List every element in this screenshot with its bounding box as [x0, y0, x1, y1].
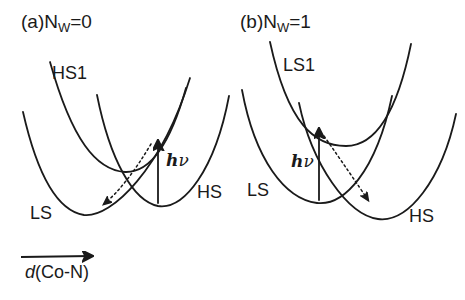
panel-b-excited-label: LS1 [283, 55, 315, 75]
panel-a-excited-label: HS1 [52, 63, 87, 83]
panel-b-photon-label: hν [291, 151, 314, 171]
axis-label: d(Co-N) [25, 262, 89, 282]
panel-b-hs-curve [299, 103, 456, 219]
axis-arrow [21, 256, 91, 257]
panel-b-title: (b)NW=1 [240, 11, 311, 35]
panel-a-ls-curve [23, 78, 190, 215]
panel-a-title: (a)NW=0 [21, 11, 92, 35]
panel-b-ls-label: LS [247, 180, 269, 200]
panel-b-hs-label: HS [409, 206, 434, 226]
diagram-canvas: (a)NW=0 HS1 LS HS hν (b)NW=1 LS1 LS HS h… [0, 0, 465, 300]
panel-a-photon-label: hν [166, 150, 189, 170]
panel-a-ls-label: LS [30, 203, 52, 223]
potential-energy-diagram: (a)NW=0 HS1 LS HS hν (b)NW=1 LS1 LS HS h… [0, 0, 465, 300]
panel-a-hs-label: HS [197, 182, 222, 202]
